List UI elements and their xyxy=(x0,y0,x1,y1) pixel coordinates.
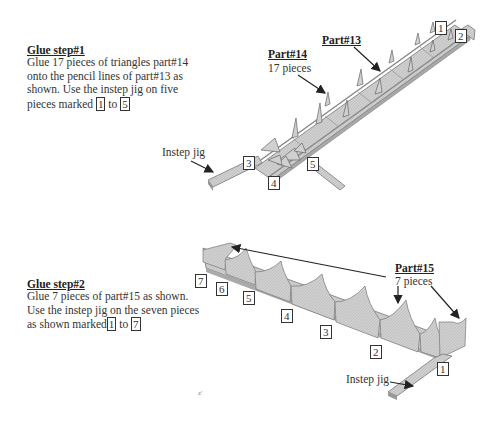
step1-line-1: Glue 17 pieces of triangles part#14 xyxy=(27,56,188,70)
step1-marker-start: 1 xyxy=(96,97,106,111)
step1-marker-2: 2 xyxy=(455,29,467,43)
step2-marker-7: 7 xyxy=(195,274,207,288)
instep-jig-step2 xyxy=(388,354,452,400)
step2-line-1: Glue 7 pieces of part#15 as shown. xyxy=(27,290,199,304)
part14-label: Part#14 xyxy=(268,48,307,60)
step1-marker-1: 1 xyxy=(435,21,447,35)
step1-line-4: pieces marked 1 to 5 xyxy=(27,97,188,112)
step1-title: Glue step#1 xyxy=(27,44,188,56)
step2-marker-2: 2 xyxy=(370,345,382,359)
step1-instructions: Glue step#1 Glue 17 pieces of triangles … xyxy=(27,44,188,111)
step1-marker-4: 4 xyxy=(268,176,280,190)
step2-title: Glue step#2 xyxy=(27,278,199,290)
step2-instructions: Glue step#2 Glue 7 pieces of part#15 as … xyxy=(27,278,199,332)
step2-jig-label: Instep jig xyxy=(346,373,389,385)
step1-line-2: onto the pencil lines of part#13 as xyxy=(27,70,188,84)
step2-line-3: as shown marked1 to 7 xyxy=(27,317,199,332)
step2-line-3-mid: to xyxy=(119,318,128,330)
stray-mark: z' xyxy=(198,389,202,397)
step1-line-4-prefix: pieces marked xyxy=(27,98,93,110)
step2-marker-4: 4 xyxy=(281,309,293,323)
step1-marker-3: 3 xyxy=(243,156,255,170)
step2-marker-5: 5 xyxy=(243,291,255,305)
step2-marker-6: 6 xyxy=(216,282,228,296)
part15-label: Part#15 xyxy=(395,262,434,274)
step2-line-3-prefix: as shown marked xyxy=(27,318,107,330)
step2-marker-1: 1 xyxy=(437,362,449,376)
part13-label: Part#13 xyxy=(322,34,361,46)
step1-line-3: shown. Use the instep jig on five xyxy=(27,83,188,97)
part14-count: 17 pieces xyxy=(268,62,311,74)
step2-marker-3: 3 xyxy=(320,325,332,339)
step2-line-2: Use the instep jig on the seven pieces xyxy=(27,304,199,318)
step1-line-4-mid: to xyxy=(108,98,117,110)
step2-marker-start: 1 xyxy=(107,317,117,331)
step1-marker-5: 5 xyxy=(307,157,319,171)
part15-count: 7 pieces xyxy=(395,275,432,287)
step1-marker-end: 5 xyxy=(120,97,130,111)
step2-marker-end: 7 xyxy=(131,317,141,331)
step1-jig-label: Instep jig xyxy=(162,146,205,158)
